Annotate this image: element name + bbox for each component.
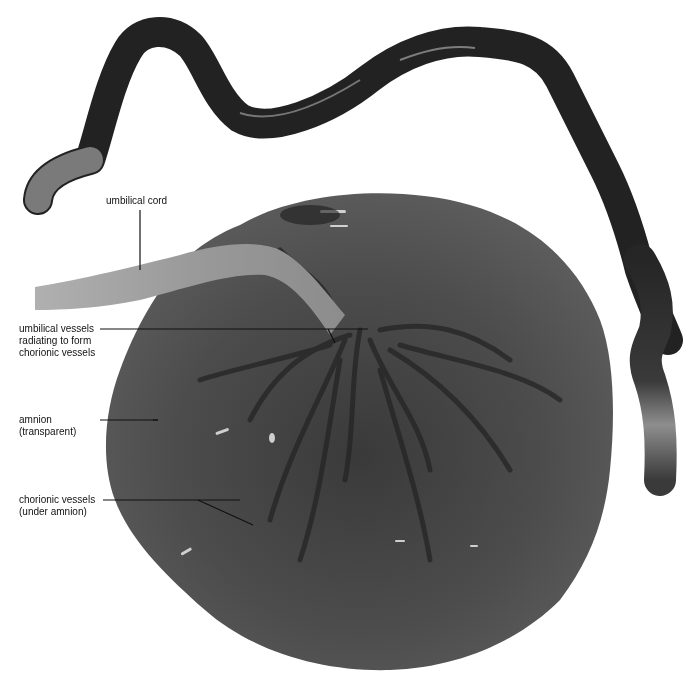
label-amnion: amnion (transparent) [19, 414, 76, 438]
placenta-figure: umbilical cord umbilical vessels radiati… [0, 0, 696, 683]
label-chorionic-vessels: chorionic vessels (under amnion) [19, 494, 95, 518]
umbilical-cord-right [640, 260, 661, 480]
label-umbilical-cord: umbilical cord [106, 195, 167, 207]
placenta-photo [0, 0, 696, 683]
label-umbilical-vessels: umbilical vessels radiating to form chor… [19, 323, 95, 359]
